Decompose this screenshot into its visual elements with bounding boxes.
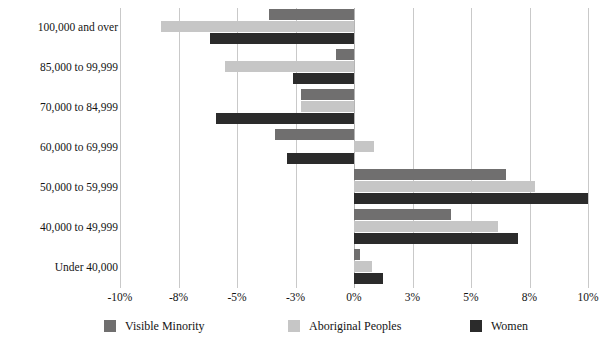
bar-group — [120, 8, 588, 48]
x-axis-tick-label: 8% — [522, 290, 537, 304]
bar — [216, 113, 354, 124]
x-axis-tick-label: 0% — [346, 290, 361, 304]
y-axis-label: Under 40,000 — [0, 261, 118, 274]
x-axis-tick-label: -8% — [169, 290, 188, 304]
y-axis-label: 40,000 to 49,999 — [0, 221, 118, 234]
bar — [354, 249, 360, 260]
bar — [161, 21, 354, 32]
x-axis-tick-labels: -10%-8%-5%-3%0%3%5%8%10% — [120, 290, 588, 308]
bar — [210, 33, 354, 44]
bar — [225, 61, 354, 72]
bar — [336, 49, 354, 60]
grouped-bar-chart: 100,000 and over85,000 to 99,99970,000 t… — [0, 0, 612, 346]
bar — [293, 73, 354, 84]
gridline — [588, 8, 589, 288]
bar — [354, 209, 451, 220]
bar-group — [120, 88, 588, 128]
x-axis-tick-label: -3% — [286, 290, 305, 304]
legend-item[interactable]: Women — [470, 316, 528, 336]
bar — [354, 181, 535, 192]
y-axis-label: 85,000 to 99,999 — [0, 61, 118, 74]
bar — [354, 169, 506, 180]
legend-item[interactable]: Visible Minority — [104, 316, 205, 336]
y-axis-label: 70,000 to 84,999 — [0, 101, 118, 114]
bar-group — [120, 248, 588, 288]
x-axis-tick-label: 10% — [577, 290, 598, 304]
legend-label: Visible Minority — [125, 319, 205, 333]
y-axis-label: 60,000 to 69,999 — [0, 141, 118, 154]
bar — [287, 153, 354, 164]
x-axis-tick-label: -10% — [108, 290, 133, 304]
bar — [301, 101, 354, 112]
legend-swatch-icon — [470, 320, 482, 332]
bar — [354, 233, 518, 244]
legend-label: Aboriginal Peoples — [309, 319, 401, 333]
bar-group — [120, 128, 588, 168]
x-axis-tick-label: -5% — [227, 290, 246, 304]
bar — [354, 261, 372, 272]
legend-label: Women — [491, 319, 528, 333]
bar-group — [120, 208, 588, 248]
x-axis-tick-label: 3% — [405, 290, 420, 304]
bar-group — [120, 48, 588, 88]
y-axis-label: 100,000 and over — [0, 21, 118, 34]
legend-item[interactable]: Aboriginal Peoples — [288, 316, 401, 336]
bar — [269, 9, 354, 20]
legend-swatch-icon — [104, 320, 116, 332]
legend-swatch-icon — [288, 320, 300, 332]
bar — [275, 129, 354, 140]
bar — [354, 221, 498, 232]
chart-legend: Visible MinorityAboriginal PeoplesWomen — [0, 316, 612, 340]
bar — [354, 273, 383, 284]
bar — [354, 193, 588, 204]
y-axis-label: 50,000 to 59,999 — [0, 181, 118, 194]
x-axis-tick-label: 5% — [463, 290, 478, 304]
bar-group — [120, 168, 588, 208]
bar — [354, 141, 374, 152]
plot-area — [120, 8, 588, 288]
y-axis-category-labels: 100,000 and over85,000 to 99,99970,000 t… — [0, 8, 118, 288]
bar — [301, 89, 354, 100]
